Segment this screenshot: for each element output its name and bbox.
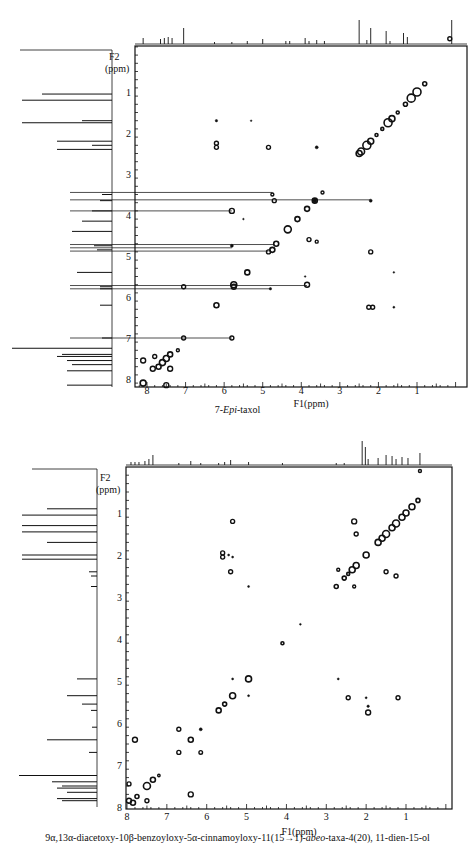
cross-peak — [150, 366, 155, 371]
diagonal-peak — [150, 777, 155, 782]
cross-peak — [168, 366, 173, 371]
diagonal-peak — [342, 576, 346, 580]
cross-peak — [127, 782, 131, 786]
title-fragment: 9α,13α-diacetoxy-10β-benzoyloxy-5α-cinna… — [45, 832, 306, 843]
diagonal-peak — [399, 514, 405, 520]
cross-peak — [267, 145, 271, 149]
cross-peak — [393, 272, 395, 274]
x-tick-label: 3 — [324, 811, 329, 822]
cross-peak — [396, 696, 400, 700]
cross-peak — [177, 750, 181, 754]
y-axis-label-unit: (ppm) — [105, 63, 129, 75]
y-tick-label: 2 — [117, 550, 122, 561]
cross-peak — [153, 354, 157, 358]
cross-peak — [272, 199, 276, 203]
y-tick-label: 6 — [126, 292, 131, 303]
y-tick-label: 7 — [126, 333, 131, 344]
cross-peak — [182, 285, 186, 289]
diagonal-peak — [223, 702, 227, 706]
y-tick-label: 8 — [117, 802, 122, 813]
diagonal-peak — [381, 127, 384, 130]
y-axis-label: F2 — [109, 51, 120, 62]
x-tick-label: 4 — [284, 811, 289, 822]
cross-peak — [132, 737, 137, 742]
x-tick-label: 5 — [244, 811, 249, 822]
diagonal-peak — [274, 241, 279, 246]
cross-peak — [384, 570, 388, 574]
cross-peak — [176, 349, 179, 352]
cross-peak — [271, 193, 274, 196]
diagonal-peak — [423, 82, 427, 86]
cosy-plot-7-epi-taxol: 8765432112345678F2(ppm)F1(ppm) — [12, 20, 467, 410]
cosy-figure: 8765432112345678F2(ppm)F1(ppm) 876543211… — [0, 0, 475, 851]
x-tick-label: 6 — [204, 811, 209, 822]
diagonal-peak — [230, 693, 236, 699]
diagonal-peak — [305, 206, 310, 211]
cross-peak — [337, 568, 340, 571]
title-fragment: Epi — [223, 404, 237, 415]
x-tick-label: 3 — [337, 385, 342, 396]
diagonal-peak — [284, 226, 291, 233]
diagonal-peak — [246, 676, 252, 682]
cross-peak — [305, 282, 310, 287]
cross-peak — [215, 120, 217, 122]
x-tick-label: 8 — [145, 385, 150, 396]
cross-peak — [393, 306, 395, 308]
cross-peak — [228, 554, 230, 556]
cross-peak — [304, 276, 306, 278]
title-fragment: 7- — [215, 404, 223, 415]
cross-peak — [307, 238, 311, 242]
x-tick-label: 1 — [415, 385, 420, 396]
cross-peak — [248, 586, 250, 588]
cross-peak — [371, 305, 375, 309]
y-tick-label: 3 — [117, 592, 122, 603]
cross-peak — [367, 705, 369, 707]
diagonal-peak — [409, 504, 415, 510]
x-tick-label: 8 — [125, 811, 130, 822]
diagonal-peak — [407, 94, 415, 102]
x-tick-label: 5 — [260, 385, 265, 396]
diagonal-peak — [245, 270, 250, 275]
x-tick-label: 6 — [222, 385, 227, 396]
diagonal-peak — [389, 525, 395, 531]
cross-peak — [158, 774, 160, 776]
y-tick-label: 4 — [126, 210, 131, 221]
diagonal-peak — [156, 364, 161, 369]
cross-peak — [250, 120, 252, 122]
cross-peak — [221, 551, 225, 555]
y-tick-label: 8 — [126, 374, 131, 385]
x-tick-label: 7 — [164, 811, 169, 822]
cross-peak — [346, 696, 350, 700]
cross-peak — [214, 145, 218, 149]
diagonal-peak — [295, 217, 300, 222]
diagonal-peak — [403, 102, 407, 106]
y-tick-label: 1 — [117, 508, 122, 519]
y-tick-label: 5 — [117, 676, 122, 687]
cross-peak — [141, 358, 146, 363]
cross-peak — [365, 697, 367, 699]
cross-peak — [337, 678, 339, 680]
cross-peak — [231, 519, 235, 523]
cross-peak — [248, 695, 250, 697]
chart-title-abeo-taxane: 9α,13α-diacetoxy-10β-benzoyloxy-5α-cinna… — [0, 832, 475, 843]
y-tick-label: 2 — [126, 128, 131, 139]
cross-peak — [369, 250, 373, 254]
x-tick-label: 4 — [299, 385, 304, 396]
y-axis-label-unit: (ppm) — [96, 484, 120, 496]
cross-peak — [299, 623, 301, 625]
diagonal-peak — [347, 572, 350, 575]
cross-peak — [177, 727, 181, 731]
cosy-plot-abeo-taxane: 8765432112345678F2(ppm)F1(ppm) — [19, 441, 452, 838]
y-axis-label: F2 — [100, 472, 111, 483]
plot-frame — [126, 467, 452, 809]
title-fragment: -taxa-4(20), 11-dien-15-ol — [325, 832, 430, 843]
diagonal-peak — [416, 498, 420, 502]
x-tick-label: 7 — [183, 385, 188, 396]
cross-peak — [448, 37, 452, 41]
diagonal-peak — [188, 737, 193, 742]
y-tick-label: 4 — [117, 634, 122, 645]
y-tick-label: 5 — [126, 251, 131, 262]
diagonal-peak — [135, 795, 139, 799]
cross-peak — [321, 191, 324, 194]
diagonal-peak — [363, 552, 369, 558]
